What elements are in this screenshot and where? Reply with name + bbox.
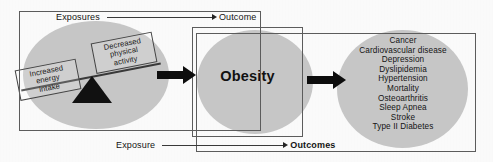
bottom-connector-to-label: Outcomes	[290, 140, 335, 150]
thick-right-arrow-icon-obesity-to-outcomes	[307, 71, 346, 89]
right-arrow-icon	[212, 14, 217, 20]
bottom-connector-from-label: Exposure	[116, 140, 155, 150]
arrow-shaft	[307, 76, 333, 84]
arrow-shaft	[157, 71, 183, 79]
top-connector: Exposures Outcome	[56, 11, 256, 23]
right-arrow-icon	[283, 142, 288, 148]
thick-right-arrow-icon-exposures-to-obesity	[157, 66, 196, 84]
obesity-frame	[192, 27, 303, 137]
top-connector-to-label: Outcome	[219, 12, 257, 22]
top-connector-line	[107, 17, 213, 18]
bottom-connector: Exposure Outcomes	[116, 139, 335, 151]
arrow-head	[183, 66, 196, 84]
top-connector-from-label: Exposures	[56, 12, 100, 22]
figure-canvas: Increased energy intake Decreased physic…	[0, 0, 493, 162]
arrow-head	[333, 71, 346, 89]
bottom-connector-line	[162, 145, 284, 146]
